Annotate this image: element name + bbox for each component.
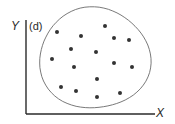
data-point bbox=[59, 85, 63, 89]
data-point bbox=[72, 65, 76, 69]
scatter-plot-canvas bbox=[0, 0, 175, 124]
data-point bbox=[112, 36, 116, 40]
axes bbox=[26, 20, 155, 114]
data-point bbox=[94, 50, 98, 54]
data-point bbox=[69, 47, 73, 51]
data-point bbox=[95, 95, 99, 99]
data-point bbox=[95, 77, 99, 81]
data-point bbox=[103, 24, 107, 28]
data-point bbox=[55, 30, 59, 34]
data-point bbox=[118, 91, 122, 95]
x-axis-label: X bbox=[156, 107, 164, 119]
boundary-ellipse bbox=[40, 7, 151, 108]
data-point bbox=[127, 38, 131, 42]
data-point bbox=[130, 65, 134, 69]
data-point bbox=[112, 61, 116, 65]
scatter-diagram: Y (d) X bbox=[0, 0, 175, 124]
data-point bbox=[79, 34, 83, 38]
data-point bbox=[50, 57, 54, 61]
panel-label: (d) bbox=[29, 21, 42, 32]
data-point bbox=[74, 89, 78, 93]
scatter-boundary bbox=[40, 7, 151, 108]
data-points bbox=[50, 24, 134, 99]
y-axis-label: Y bbox=[11, 20, 19, 32]
